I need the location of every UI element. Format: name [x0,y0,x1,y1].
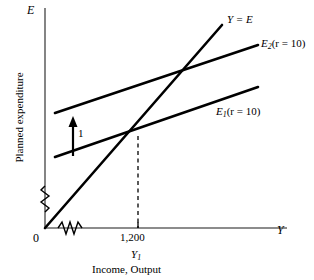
curve-label-e1-tail: (r = 10) [227,105,261,117]
origin-label: 0 [33,232,39,244]
x-tick-label-1200: 1,200 [120,232,145,243]
curve-label-e2: E2(r = 10) [261,38,305,51]
equilibrium-output-subscript: 1 [137,253,141,262]
expenditure-diagram: E Y 0 1,200 Y1 Income, Output Planned ex… [0,0,314,280]
curve-expenditure-line-2 [55,45,258,113]
curve-label-e2-tail: (r = 10) [272,37,306,49]
x-axis-title: Income, Output [92,264,161,275]
shift-arrow-head-icon [69,116,78,127]
curve-label-45-degree: Y = E [227,14,253,25]
x-axis-symbol: Y [277,224,284,236]
y-axis-title: Planned expenditure [14,53,25,183]
curve-expenditure-line-1 [55,87,258,157]
shift-arrow-label: 1 [78,128,84,139]
curve-label-e1: E1(r = 10) [216,106,260,119]
equilibrium-output-label: Y1 [131,249,141,262]
curve-label-e1-symbol: E [216,105,223,117]
curve-label-e2-symbol: E [261,37,268,49]
y-axis-symbol: E [27,4,34,16]
